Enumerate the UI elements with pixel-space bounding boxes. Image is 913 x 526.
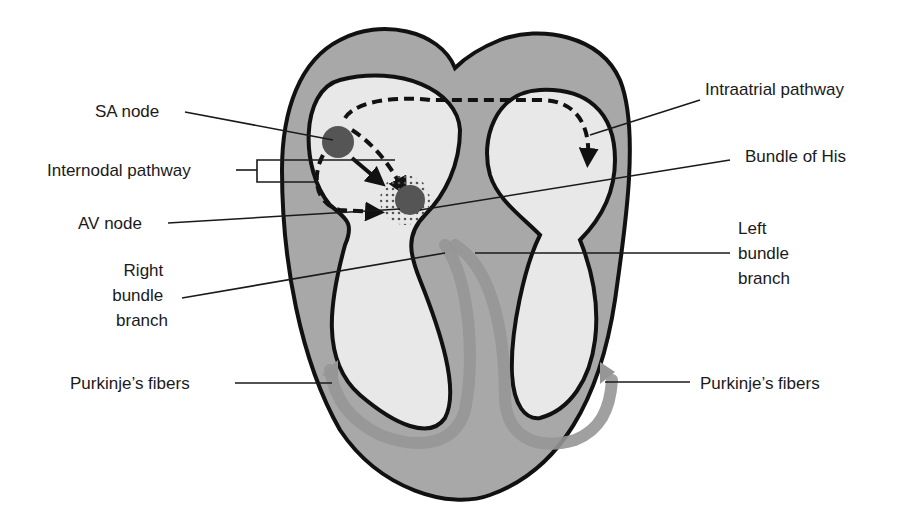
sa-node (322, 126, 354, 158)
label-right-bundle-branch-line3: branch (116, 311, 168, 330)
label-left-bundle-branch-line1: Left (738, 219, 767, 238)
label-bundle-of-his: Bundle of His (745, 147, 846, 166)
label-intraatrial-pathway: Intraatrial pathway (705, 80, 844, 99)
label-purkinje-right: Purkinje’s fibers (700, 374, 820, 393)
label-left-bundle-branch: Left bundle branch (738, 219, 794, 288)
label-internodal-pathway: Internodal pathway (47, 161, 191, 180)
label-left-bundle-branch-line3: branch (738, 269, 790, 288)
label-right-bundle-branch-line1: Right (124, 261, 164, 280)
label-right-bundle-branch: Right bundle branch (112, 261, 168, 330)
heart-conduction-diagram: SA node Internodal pathway AV node Right… (0, 0, 913, 526)
label-right-bundle-branch-line2: bundle (112, 286, 163, 305)
label-left-bundle-branch-line2: bundle (738, 244, 789, 263)
label-av-node: AV node (78, 214, 142, 233)
label-sa-node: SA node (95, 102, 159, 121)
label-purkinje-left: Purkinje’s fibers (70, 374, 190, 393)
